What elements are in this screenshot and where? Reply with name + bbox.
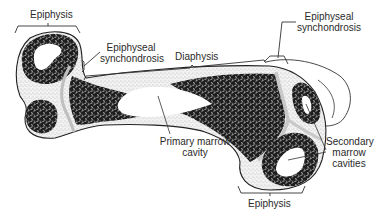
- synchondrosis-right-leader: [278, 22, 296, 58]
- label-epiphyseal-synchondrosis-right-line1: Epiphyseal: [296, 11, 362, 22]
- label-primary-marrow-cavity-line2: cavity: [155, 147, 235, 158]
- epiphysis-left-bracket: [15, 23, 80, 33]
- label-epiphysis-left: Epiphysis: [30, 9, 73, 20]
- label-diaphysis: Diaphysis: [175, 51, 218, 62]
- label-secondary-marrow-cavities-line2: marrow: [326, 147, 372, 158]
- label-secondary-marrow-cavities-line1: Secondary: [326, 136, 372, 147]
- label-epiphyseal-synchondrosis-right: Epiphyseal synchondrosis: [296, 11, 362, 33]
- bone-illustration: [0, 0, 386, 223]
- left-epiphysis-lower-spongy: [26, 100, 58, 134]
- label-primary-marrow-cavity: Primary marrow cavity: [155, 136, 235, 158]
- label-epiphyseal-synchondrosis-left-line2: synchondrosis: [100, 53, 162, 64]
- label-primary-marrow-cavity-line1: Primary marrow: [155, 136, 235, 147]
- label-secondary-marrow-cavities-line3: cavities: [326, 158, 372, 169]
- label-epiphyseal-synchondrosis-right-line2: synchondrosis: [296, 22, 362, 33]
- label-epiphyseal-synchondrosis-left-line1: Epiphyseal: [100, 42, 162, 53]
- label-secondary-marrow-cavities: Secondary marrow cavities: [326, 136, 372, 169]
- label-epiphyseal-synchondrosis-left: Epiphyseal synchondrosis: [100, 42, 162, 64]
- label-epiphysis-bottom: Epiphysis: [248, 198, 291, 209]
- synchondrosis-left-leader: [82, 52, 100, 72]
- bone-diagram: Epiphysis Epiphyseal synchondrosis Diaph…: [0, 0, 386, 223]
